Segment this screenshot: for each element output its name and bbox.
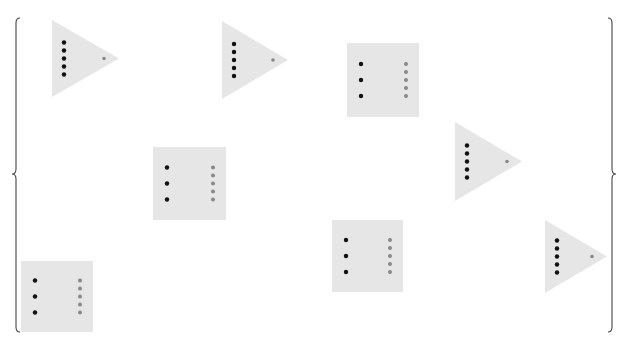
black-dot (555, 262, 559, 266)
triangle-1 (52, 20, 119, 97)
black-dot (62, 72, 66, 76)
grey-dot (211, 198, 215, 202)
triangle-3 (455, 122, 522, 201)
black-dot (232, 66, 236, 70)
black-dot (165, 181, 169, 185)
grey-dot (78, 279, 82, 283)
grey-dot (78, 287, 82, 291)
grey-dot (102, 57, 106, 61)
square-2 (153, 147, 226, 220)
left-brace (12, 18, 20, 332)
grey-dot (404, 62, 408, 66)
square-shape (153, 147, 226, 220)
grey-dot (211, 166, 215, 170)
square-3 (332, 220, 403, 292)
grey-dot (388, 238, 392, 242)
black-dot (33, 310, 37, 314)
black-dot (465, 167, 469, 171)
right-brace (608, 18, 616, 332)
black-dot (344, 254, 348, 258)
black-dot (62, 56, 66, 60)
square-4 (21, 261, 93, 332)
grey-dot (388, 262, 392, 266)
triangle-4 (545, 220, 607, 293)
black-dot (33, 278, 37, 282)
grey-dot (271, 58, 275, 62)
grey-dot (404, 94, 408, 98)
black-dot (232, 58, 236, 62)
triangle-shape (545, 220, 607, 293)
grey-dot (388, 246, 392, 250)
grey-dot (388, 270, 392, 274)
black-dot (359, 78, 363, 82)
black-dot (344, 270, 348, 274)
black-dot (359, 94, 363, 98)
grey-dot (404, 70, 408, 74)
black-dot (232, 42, 236, 46)
grey-dot (404, 86, 408, 90)
black-dot (62, 64, 66, 68)
grey-dot (78, 311, 82, 315)
black-dot (555, 270, 559, 274)
black-dot (33, 294, 37, 298)
black-dot (465, 175, 469, 179)
grey-dot (211, 182, 215, 186)
black-dot (465, 151, 469, 155)
black-dot (232, 50, 236, 54)
triangle-2 (222, 21, 288, 99)
black-dot (232, 74, 236, 78)
grey-dot (78, 295, 82, 299)
grey-dot (211, 174, 215, 178)
black-dot (165, 165, 169, 169)
grey-dot (590, 255, 594, 259)
square-shape (21, 261, 93, 332)
black-dot (165, 197, 169, 201)
black-dot (62, 40, 66, 44)
black-dot (62, 48, 66, 52)
square-1 (347, 43, 419, 117)
square-shape (332, 220, 403, 292)
black-dot (359, 62, 363, 66)
diagram-canvas (0, 0, 624, 346)
grey-dot (78, 303, 82, 307)
black-dot (555, 238, 559, 242)
grey-dot (404, 78, 408, 82)
grey-dot (211, 190, 215, 194)
black-dot (344, 238, 348, 242)
black-dot (555, 254, 559, 258)
black-dot (465, 143, 469, 147)
grey-dot (388, 254, 392, 258)
square-shape (347, 43, 419, 117)
black-dot (555, 246, 559, 250)
black-dot (465, 159, 469, 163)
grey-dot (505, 160, 509, 164)
